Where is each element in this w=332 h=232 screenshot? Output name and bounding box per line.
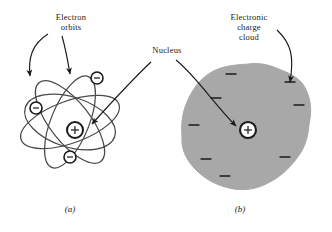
label-electronic-charge-cloud: Electronic charge cloud [216,12,282,42]
panel-a-nucleus [67,122,83,138]
electron-2 [30,102,42,114]
electron-3 [64,151,76,163]
label-nucleus: Nucleus [138,45,196,55]
atomic-models-figure: Electron orbits Nucleus Electronic charg… [0,0,332,232]
arrow-electron-orbits-left [30,34,48,76]
caption-panel-b: (b) [220,204,260,214]
label-electron-orbits: Electron orbits [34,12,108,32]
figure-artwork [0,0,332,232]
arrow-electron-orbits-right [62,36,70,74]
electron-1 [91,72,103,84]
caption-panel-a: (a) [50,204,90,214]
arrow-nucleus-a [92,62,151,124]
panel-b-nucleus [240,122,256,138]
